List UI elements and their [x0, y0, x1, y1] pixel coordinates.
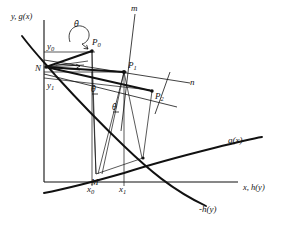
point-label-P0: P0	[91, 37, 102, 48]
coord-label-y1: y1	[46, 80, 54, 91]
chord-fan-group	[46, 51, 152, 91]
ray-P2-to-crossing	[143, 91, 152, 158]
angle-label-theta-low: θ	[112, 103, 117, 112]
ray-P1-to-M-b	[102, 72, 124, 174]
curves-group	[22, 36, 262, 206]
axes-group	[44, 20, 238, 182]
point-marker-crossing	[141, 156, 144, 159]
curve-minus-h-of-y	[22, 36, 206, 206]
point-marker-N	[44, 65, 47, 68]
point-marker-P1	[122, 70, 126, 74]
ray-P1-to-crossing	[124, 72, 142, 158]
line-label-m: m	[131, 3, 138, 13]
coord-label-x1: x1	[118, 184, 126, 195]
point-markers-group	[44, 49, 153, 159]
y-axis-label: y, g(x)	[10, 11, 32, 21]
theta-arrowhead-N	[76, 64, 80, 68]
point-marker-P2	[150, 89, 153, 92]
level-line-y2	[44, 78, 150, 90]
base-M-to-crossing	[96, 158, 143, 174]
point-label-P1: P1	[127, 60, 137, 71]
angle-label-theta-mid: θ	[91, 85, 96, 94]
point-label-M: M	[90, 177, 99, 187]
curve-label-minus-h: -h(y)	[199, 204, 217, 214]
coord-label-y0: y0	[46, 41, 55, 52]
diagram-canvas: y, g(x) x, h(y) g(x) -h(y) m n N M P0 P1…	[0, 0, 297, 228]
figure-container: y, g(x) x, h(y) g(x) -h(y) m n N M P0 P1…	[0, 0, 297, 228]
chord-N-to-P0	[46, 51, 92, 67]
x-axis-label: x, h(y)	[242, 182, 265, 192]
point-marker-P0	[90, 49, 93, 52]
angle-label-theta-top: θ	[74, 20, 79, 29]
curve-label-g: g(x)	[228, 135, 243, 145]
curve-g-of-x	[44, 137, 262, 193]
point-label-N: N	[34, 63, 42, 73]
line-label-n: n	[190, 77, 195, 87]
theta-arc-top	[69, 26, 89, 44]
